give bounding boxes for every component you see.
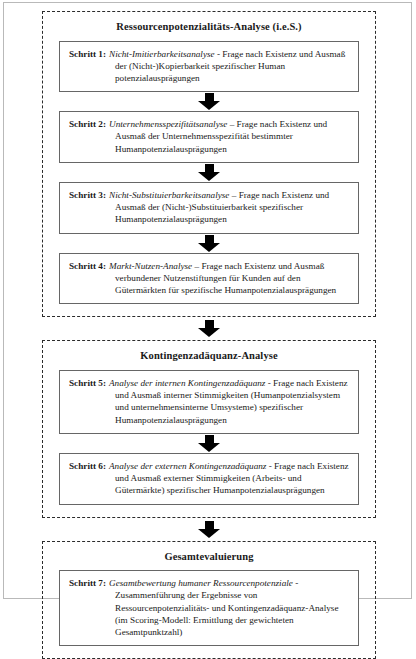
step-box-schritt-7: Schritt 7:Gesamtbewertung humaner Ressou… bbox=[59, 570, 359, 646]
down-arrow-icon bbox=[198, 93, 221, 110]
arrow-group-2-to-3 bbox=[42, 518, 376, 541]
group-kontingenzadaequanz-analyse: Kontingenzadäquanz-Analyse Schritt 5:Ana… bbox=[42, 340, 376, 517]
step-box-schritt-5: Schritt 5:Analyse der internen Kontingen… bbox=[59, 370, 359, 434]
step-label-schritt-3: Schritt 3: bbox=[69, 190, 109, 200]
group-title-kontingenzadaequanz-analyse: Kontingenzadäquanz-Analyse bbox=[59, 350, 359, 362]
step-box-schritt-3: Schritt 3:Nicht-Substituierbarkeitsanaly… bbox=[59, 182, 359, 234]
step-label-schritt-5: Schritt 5: bbox=[69, 378, 109, 388]
step-label-schritt-7: Schritt 7: bbox=[69, 578, 109, 588]
down-arrow-icon bbox=[198, 521, 221, 538]
step-label-schritt-6: Schritt 6: bbox=[69, 461, 109, 471]
arrow-schritt-2-to-3 bbox=[59, 163, 359, 182]
down-arrow-icon bbox=[198, 320, 221, 337]
group-ressourcenpotenzialitaets-analyse: Ressourcenpotenzialitäts-Analyse (i.e.S.… bbox=[42, 11, 376, 317]
step-italic-schritt-4: Markt-Nutzen-Analyse bbox=[109, 261, 192, 271]
step-italic-schritt-3: Nicht-Substituierbarkeitsanalyse bbox=[109, 190, 229, 200]
group-title-ressourcenpotenzialitaets-analyse: Ressourcenpotenzialitäts-Analyse (i.e.S.… bbox=[59, 21, 359, 33]
step-box-schritt-4: Schritt 4:Markt-Nutzen-Analyse – Frage n… bbox=[59, 253, 359, 305]
step-text-schritt-1: Schritt 1:Nicht-Imitierbarkeitsanalyse -… bbox=[69, 48, 349, 85]
arrow-group-1-to-2 bbox=[42, 317, 376, 340]
arrow-schritt-3-to-4 bbox=[59, 234, 359, 253]
step-text-schritt-3: Schritt 3:Nicht-Substituierbarkeitsanaly… bbox=[69, 189, 349, 226]
group-gesamtevaluierung: Gesamtevaluierung Schritt 7:Gesamtbewert… bbox=[42, 541, 376, 659]
step-box-schritt-1: Schritt 1:Nicht-Imitierbarkeitsanalyse -… bbox=[59, 41, 359, 93]
step-box-schritt-2: Schritt 2:Unternehmensspezifitätsanalyse… bbox=[59, 111, 359, 163]
step-italic-schritt-5: Analyse der internen Kontingenzadäquanz bbox=[109, 378, 265, 388]
step-box-schritt-6: Schritt 6:Analyse der externen Kontingen… bbox=[59, 453, 359, 505]
step-text-schritt-5: Schritt 5:Analyse der internen Kontingen… bbox=[69, 377, 349, 426]
step-label-schritt-1: Schritt 1: bbox=[69, 49, 109, 59]
step-italic-schritt-6: Analyse der externen Kontingenzadäquanz bbox=[109, 461, 266, 471]
down-arrow-icon bbox=[198, 235, 221, 252]
step-text-schritt-4: Schritt 4:Markt-Nutzen-Analyse – Frage n… bbox=[69, 260, 349, 297]
step-text-schritt-2: Schritt 2:Unternehmensspezifitätsanalyse… bbox=[69, 118, 349, 155]
step-italic-schritt-2: Unternehmensspezifitätsanalyse bbox=[109, 119, 227, 129]
arrow-schritt-5-to-6 bbox=[59, 434, 359, 453]
step-label-schritt-4: Schritt 4: bbox=[69, 261, 109, 271]
group-title-gesamtevaluierung: Gesamtevaluierung bbox=[59, 551, 359, 563]
step-text-schritt-6: Schritt 6:Analyse der externen Kontingen… bbox=[69, 460, 349, 497]
step-italic-schritt-1: Nicht-Imitierbarkeitsanalyse bbox=[109, 49, 215, 59]
step-label-schritt-2: Schritt 2: bbox=[69, 119, 109, 129]
step-italic-schritt-7: Gesamtbewertung humaner Ressourcenpotenz… bbox=[109, 578, 293, 588]
arrow-schritt-1-to-2 bbox=[59, 92, 359, 111]
step-text-schritt-7: Schritt 7:Gesamtbewertung humaner Ressou… bbox=[69, 577, 349, 638]
down-arrow-icon bbox=[198, 435, 221, 452]
down-arrow-icon bbox=[198, 164, 221, 181]
